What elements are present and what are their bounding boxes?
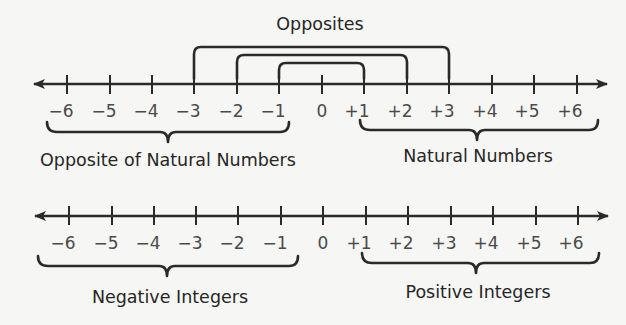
tick-label: 0 — [317, 101, 328, 121]
tick-label: +2 — [388, 233, 413, 253]
tick-label: −5 — [91, 101, 116, 121]
brace-opposite-natural — [47, 122, 289, 142]
tick-label: −5 — [93, 233, 118, 253]
label-natural-numbers: Natural Numbers — [403, 146, 553, 166]
tick-label: +4 — [473, 233, 498, 253]
tick-label: +6 — [557, 101, 582, 121]
number-line-2: −6 −5 −4 −3 −2 −1 0 +1 +2 +3 +4 +5 +6 Ne… — [35, 206, 608, 307]
tick-label: −6 — [48, 101, 73, 121]
tick-label: 0 — [318, 233, 329, 253]
tick-label: −2 — [219, 233, 244, 253]
tick-label: −3 — [175, 101, 200, 121]
number-line-1: −6 −5 −4 −3 −2 −1 0 +1 +2 +3 +4 +5 +6 Op… — [34, 75, 607, 170]
opposite-brackets — [194, 47, 449, 79]
tick-label: −6 — [50, 233, 75, 253]
brace-positive-integers — [362, 253, 599, 273]
brace-natural — [360, 120, 598, 140]
tick-label: +5 — [516, 233, 541, 253]
tick-label: −1 — [260, 101, 285, 121]
tick-label: +1 — [346, 233, 371, 253]
tick-label: +5 — [514, 101, 539, 121]
tick-label: −3 — [177, 233, 202, 253]
tick-label: +2 — [387, 101, 412, 121]
opposites-title: Opposites — [276, 14, 363, 34]
tick-label: +6 — [558, 233, 583, 253]
label-negative-integers: Negative Integers — [92, 287, 248, 307]
tick-label: +3 — [431, 233, 456, 253]
tick-label: +3 — [429, 101, 454, 121]
tick-label: −4 — [133, 101, 158, 121]
tick-label: −2 — [218, 101, 243, 121]
tick-label: +1 — [344, 101, 369, 121]
tick-label: −4 — [135, 233, 160, 253]
label-positive-integers: Positive Integers — [405, 282, 550, 302]
diagram-canvas: Opposites −6 −5 −4 −3 −2 — [0, 0, 626, 325]
tick-labels-1: −6 −5 −4 −3 −2 −1 0 +1 +2 +3 +4 +5 +6 — [48, 101, 582, 121]
label-opposite-of-natural-numbers: Opposite of Natural Numbers — [40, 150, 296, 170]
tick-labels-2: −6 −5 −4 −3 −2 −1 0 +1 +2 +3 +4 +5 +6 — [50, 233, 583, 253]
brace-negative-integers — [38, 256, 298, 276]
tick-label: +4 — [472, 101, 497, 121]
number-line-diagram: Opposites −6 −5 −4 −3 −2 — [0, 0, 626, 325]
tick-label: −1 — [262, 233, 287, 253]
